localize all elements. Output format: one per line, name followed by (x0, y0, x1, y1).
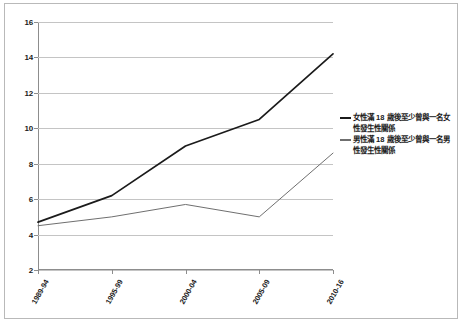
x-tick-mark-2005-09 (259, 270, 260, 274)
y-tick-label-14: 14 (25, 53, 34, 62)
series-line-men (38, 153, 333, 226)
legend-label-women: 女性滿 18 歲後至少曾與一名女性發生性關係 (353, 113, 453, 134)
y-tick-label-8: 8 (29, 159, 33, 168)
y-tick-label-6: 6 (29, 195, 33, 204)
x-tick-mark-2000-04 (186, 270, 187, 274)
y-tick-label-16: 16 (25, 18, 34, 27)
x-tick-label-1995-99: 1995-99 (103, 278, 124, 306)
legend-item-men: 男性滿 18 歲後至少曾與一名男性發生性關係 (340, 135, 458, 156)
plot-area: 246810121416 1989-941995-992000-042005-0… (38, 22, 333, 270)
y-tick-label-10: 10 (25, 124, 34, 133)
y-tick-label-4: 4 (29, 230, 33, 239)
legend-label-men: 男性滿 18 歲後至少曾與一名男性發生性關係 (353, 135, 453, 156)
legend-line-swatch-men (340, 135, 351, 144)
x-tick-mark-2010-16 (333, 270, 334, 274)
legend-item-women: 女性滿 18 歲後至少曾與一名女性發生性關係 (340, 113, 458, 134)
chart-legend: 女性滿 18 歲後至少曾與一名女性發生性關係 男性滿 18 歲後至少曾與一名男性… (340, 113, 458, 157)
x-tick-label-2005-09: 2005-09 (251, 278, 272, 306)
legend-line-swatch-women (340, 113, 351, 122)
x-tick-label-1989-94: 1989-94 (30, 278, 51, 306)
x-tick-mark-1995-99 (112, 270, 113, 274)
y-tick-label-2: 2 (29, 266, 33, 275)
series-lines (38, 22, 333, 270)
x-tick-label-2010-16: 2010-16 (325, 278, 346, 306)
x-tick-mark-1989-94 (38, 270, 39, 274)
x-tick-label-2000-04: 2000-04 (177, 278, 198, 306)
y-tick-label-12: 12 (25, 88, 34, 97)
series-line-women (38, 54, 333, 222)
chart-figure: 246810121416 1989-941995-992000-042005-0… (0, 0, 462, 323)
